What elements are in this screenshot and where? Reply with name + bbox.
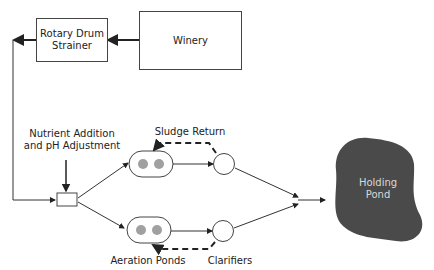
aerator-icon [154, 159, 164, 169]
sludge-return-lower [153, 242, 215, 249]
clarifier-lower [213, 221, 234, 242]
nutrient-label-line1: Nutrient Addition [22, 128, 122, 140]
winery-label: Winery [173, 35, 208, 47]
clarifier-upper-out [235, 168, 298, 197]
holding-pond-label: Holding Pond [348, 177, 408, 201]
aeration-pond-lower [127, 217, 171, 243]
nutrient-label: Nutrient Addition and pH Adjustment [22, 128, 122, 152]
strainer-label-line2: Strainer [52, 40, 92, 52]
aeration-pond-upper [129, 151, 173, 177]
return-line [13, 40, 55, 200]
holding-pond-label-line1: Holding [348, 177, 408, 189]
strainer-label-line1: Rotary Drum [40, 28, 104, 40]
nutrient-label-line2: and pH Adjustment [22, 140, 122, 152]
holding-pond-label-line2: Pond [348, 189, 408, 201]
clarifier-lower-out [234, 204, 298, 228]
aeration-ponds-label: Aeration Ponds [108, 255, 188, 267]
split-lower-arrow [78, 202, 124, 228]
split-upper-arrow [78, 163, 128, 198]
aerator-icon [136, 225, 146, 235]
mixing-box [57, 193, 77, 206]
clarifier-upper [214, 154, 235, 175]
clarifiers-label: Clarifiers [200, 255, 260, 267]
rotary-drum-strainer-box: Rotary Drum Strainer [36, 18, 108, 62]
aerator-icon [138, 159, 148, 169]
winery-box: Winery [139, 11, 242, 70]
sludge-return-label: Sludge Return [150, 126, 230, 138]
aerator-icon [152, 225, 162, 235]
